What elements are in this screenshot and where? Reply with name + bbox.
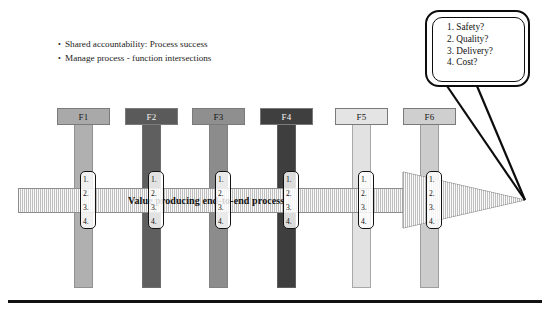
callout-inner-border: 1. Safety?2. Quality?3. Delivery?4. Cost…: [432, 17, 525, 82]
callout-item: 1. Safety?: [433, 22, 524, 34]
callout-item: 3. Delivery?: [433, 46, 524, 58]
callout-box: 1. Safety?2. Quality?3. Delivery?4. Cost…: [425, 10, 530, 87]
callout-item: 2. Quality?: [433, 34, 524, 46]
bottom-divider: [8, 299, 542, 303]
callout-item: 4. Cost?: [433, 57, 524, 69]
callout-question-list: 1. Safety?2. Quality?3. Delivery?4. Cost…: [433, 18, 524, 69]
diagram-canvas: • Shared accountability: Process success…: [0, 0, 550, 313]
